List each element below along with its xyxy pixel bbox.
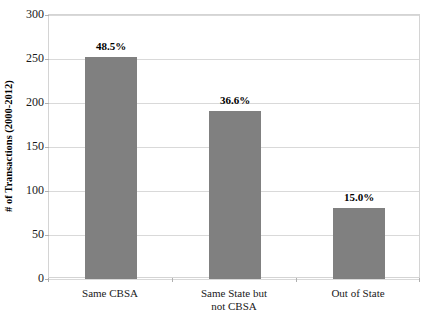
bar[interactable]	[85, 57, 137, 279]
bar[interactable]	[333, 208, 385, 279]
y-axis-tick-mark	[45, 59, 49, 60]
bar-data-label: 15.0%	[319, 191, 399, 203]
y-axis-tick-mark	[45, 191, 49, 192]
x-axis-tick-label: Same State butnot CBSA	[172, 287, 296, 313]
y-axis-tick-label: 200	[4, 96, 44, 108]
y-axis-tick-label: 250	[4, 52, 44, 64]
y-axis-tick-mark	[45, 235, 49, 236]
y-axis-tick-label: 300	[4, 8, 44, 20]
y-axis-tick-label: 150	[4, 140, 44, 152]
plot-area: 48.5%36.6%15.0%	[48, 14, 420, 278]
bar-chart: # of Transactions (2000-2012) 0501001502…	[0, 0, 430, 316]
y-axis-tick-mark	[45, 103, 49, 104]
x-axis-tick-label-line: Same State but	[172, 287, 296, 300]
x-axis-tick-labels: Same CBSASame State butnot CBSAOut of St…	[48, 281, 420, 316]
y-axis-tick-labels: 050100150200250300	[0, 0, 44, 316]
y-axis-tick-mark	[45, 147, 49, 148]
x-axis-tick-label: Out of State	[296, 287, 420, 300]
x-axis-tick-label-line: Out of State	[296, 287, 420, 300]
y-axis-tick-label: 100	[4, 184, 44, 196]
x-axis-tick-label-line: not CBSA	[172, 300, 296, 313]
bar[interactable]	[209, 111, 261, 279]
bar-data-label: 36.6%	[195, 94, 275, 106]
y-axis-tick-mark	[45, 15, 49, 16]
bar-data-label: 48.5%	[71, 40, 151, 52]
x-axis-tick-label: Same CBSA	[48, 287, 172, 300]
gridline	[49, 15, 419, 16]
y-axis-tick-label: 50	[4, 228, 44, 240]
x-axis-tick-label-line: Same CBSA	[48, 287, 172, 300]
y-axis-tick-label: 0	[4, 272, 44, 284]
